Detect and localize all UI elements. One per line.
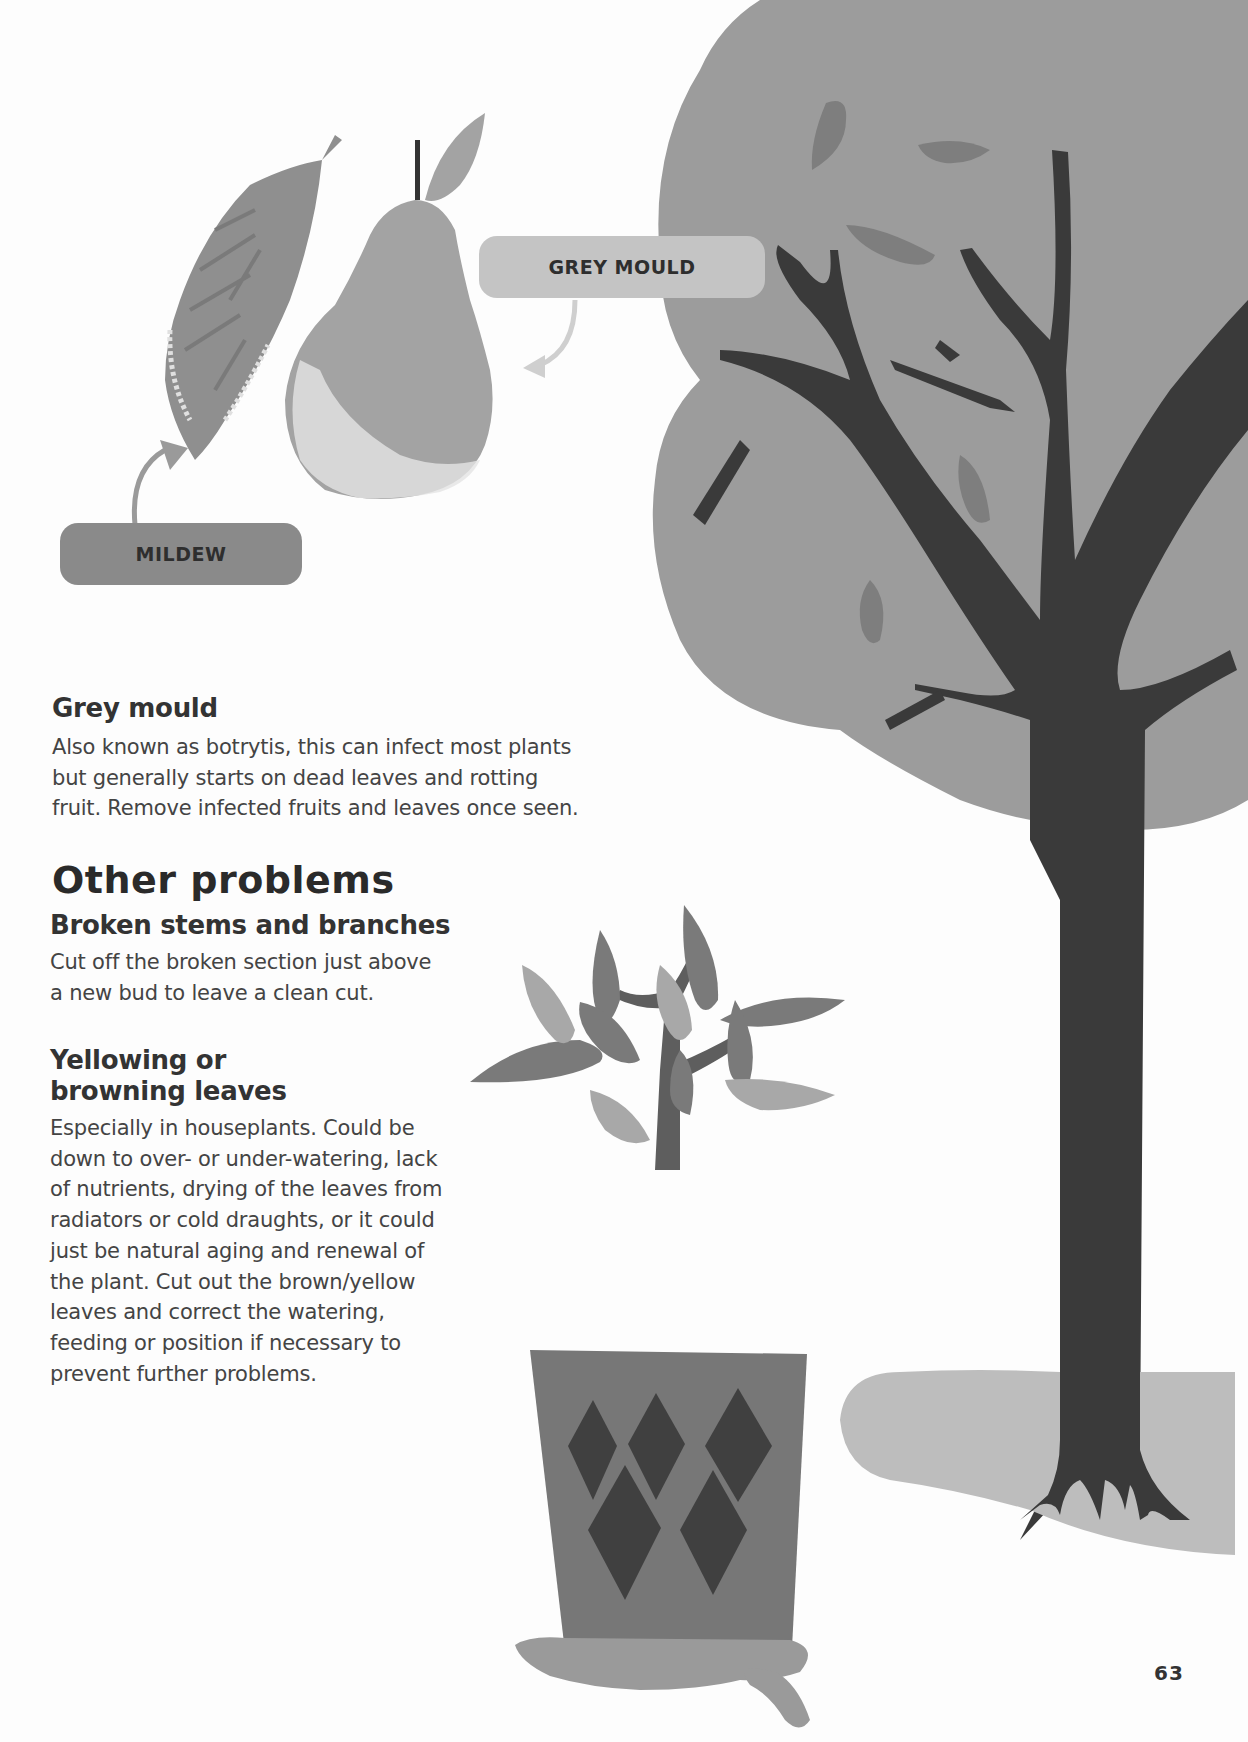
heading-line: browning leaves bbox=[50, 1076, 287, 1106]
mildew-arrow bbox=[134, 450, 165, 525]
other-problems-heading: Other problems bbox=[52, 858, 395, 902]
body-line: a new bud to leave a clean cut. bbox=[50, 981, 374, 1005]
mildew-label: MILDEW bbox=[60, 523, 302, 585]
body-line: Also known as botrytis, this can infect … bbox=[52, 735, 571, 759]
yellowing-leaves-heading: Yellowing or browning leaves bbox=[50, 1045, 470, 1107]
grey-mould-heading: Grey mould bbox=[52, 693, 612, 724]
body-line: feeding or position if necessary to bbox=[50, 1331, 401, 1355]
body-line: the plant. Cut out the brown/yellow bbox=[50, 1270, 415, 1294]
broken-stems-body: Cut off the broken section just above a … bbox=[50, 947, 470, 1008]
body-line: Cut off the broken section just above bbox=[50, 950, 431, 974]
yellowing-leaves-section: Yellowing or browning leaves Especially … bbox=[50, 1045, 470, 1389]
tree-ground bbox=[840, 1370, 1235, 1555]
body-line: Especially in houseplants. Could be bbox=[50, 1116, 414, 1140]
plant-pot bbox=[530, 1350, 807, 1652]
body-line: leaves and correct the watering, bbox=[50, 1300, 385, 1324]
body-line: radiators or cold draughts, or it could bbox=[50, 1208, 435, 1232]
broken-stems-heading: Broken stems and branches bbox=[50, 910, 470, 941]
page-number: 63 bbox=[1154, 1661, 1184, 1685]
grey-mould-arrow bbox=[540, 300, 575, 365]
body-line: just be natural aging and renewal of bbox=[50, 1239, 424, 1263]
other-problems-section: Other problems bbox=[52, 858, 395, 902]
body-line: fruit. Remove infected fruits and leaves… bbox=[52, 796, 578, 820]
grey-mould-body: Also known as botrytis, this can infect … bbox=[52, 732, 612, 824]
body-line: prevent further problems. bbox=[50, 1362, 317, 1386]
body-line: of nutrients, drying of the leaves from bbox=[50, 1177, 442, 1201]
body-line: but generally starts on dead leaves and … bbox=[52, 766, 538, 790]
grey-mould-label: GREY MOULD bbox=[479, 236, 765, 298]
water-droplet bbox=[745, 1668, 810, 1728]
broken-stems-section: Broken stems and branches Cut off the br… bbox=[50, 910, 470, 1008]
heading-line: Yellowing or bbox=[50, 1045, 226, 1075]
potted-plant bbox=[470, 905, 845, 1170]
body-line: down to over- or under-watering, lack bbox=[50, 1147, 437, 1171]
yellowing-leaves-body: Especially in houseplants. Could be down… bbox=[50, 1113, 470, 1389]
grey-mould-section: Grey mould Also known as botrytis, this … bbox=[52, 693, 612, 824]
